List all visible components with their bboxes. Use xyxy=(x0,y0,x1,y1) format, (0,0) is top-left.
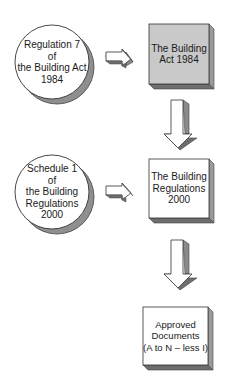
circle-label-schedule-1: Schedule 1 of the Building Regulations 2… xyxy=(15,155,89,229)
box-label-approved-documents: Approved Documents (A to N – less I) xyxy=(143,307,208,365)
arrow-down-2 xyxy=(164,240,197,290)
box-label-building-act: The Building Act 1984 xyxy=(149,24,209,84)
arrow-right-2 xyxy=(106,183,133,202)
arrow-right-1 xyxy=(106,49,133,68)
box-label-building-regulations: The Building Regulations 2000 xyxy=(149,159,209,218)
arrow-down-1 xyxy=(164,100,197,150)
circle-label-regulation-7: Regulation 7 of the Building Act 1984 xyxy=(15,25,89,99)
